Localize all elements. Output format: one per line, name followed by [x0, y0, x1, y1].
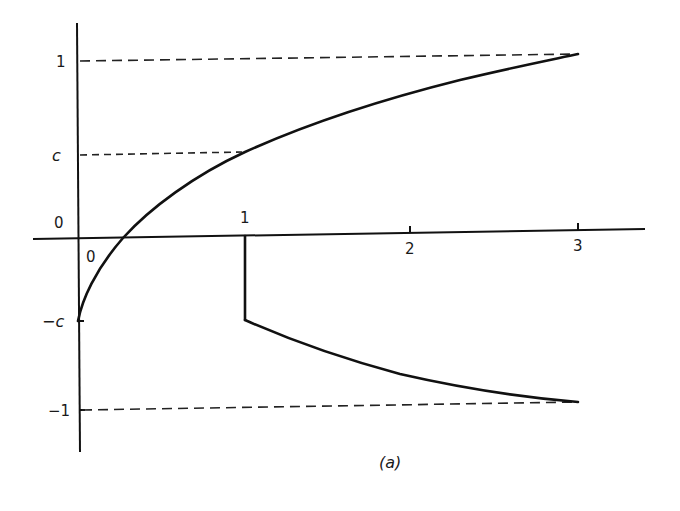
x-label-2: 2: [405, 240, 415, 258]
y-label-0: 0: [54, 214, 64, 232]
upper-branch-curve: [78, 54, 578, 321]
chart: 1 c 0 −c −1 0 1 2 3 (a): [0, 0, 680, 511]
y-label-neg-c: −c: [42, 312, 64, 331]
x-label-1: 1: [240, 209, 250, 227]
reference-line-y-1: [80, 54, 578, 61]
y-label-c: c: [52, 146, 61, 165]
reference-line-y-c: [80, 152, 242, 155]
x-label-0: 0: [86, 248, 96, 266]
figure-caption: (a): [379, 453, 401, 472]
lower-branch-curve: [245, 320, 578, 402]
y-label-1: 1: [56, 53, 66, 71]
reference-line-y-neg-1: [82, 402, 578, 410]
x-label-3: 3: [573, 237, 583, 255]
y-label-neg-1: −1: [48, 402, 70, 420]
